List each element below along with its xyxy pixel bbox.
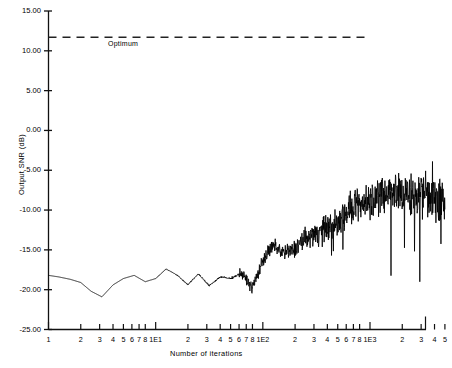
x-tick-label: 5 <box>431 335 452 344</box>
x-axis-ticks <box>49 317 445 330</box>
y-tick-label: 10.00 <box>0 46 41 55</box>
y-tick-label: -20.00 <box>0 285 41 294</box>
x-tick-label: 1 <box>35 335 63 344</box>
x-tick-label: 1E2 <box>249 335 277 344</box>
y-tick-label: -25.00 <box>0 325 41 334</box>
optimum-line-label: Optimum <box>108 40 138 47</box>
x-tick-label: 1E1 <box>142 335 170 344</box>
y-tick-label: 5.00 <box>0 86 41 95</box>
y-tick-label: -15.00 <box>0 245 41 254</box>
y-axis-title: Output SNR (dB) <box>17 110 26 220</box>
axes <box>49 11 427 330</box>
x-axis-title: Number of iterations <box>170 349 243 358</box>
x-tick-label: 1E3 <box>356 335 384 344</box>
y-tick-label: 15.00 <box>0 6 41 15</box>
data-series-line <box>49 161 445 296</box>
data-series-group <box>49 161 445 296</box>
